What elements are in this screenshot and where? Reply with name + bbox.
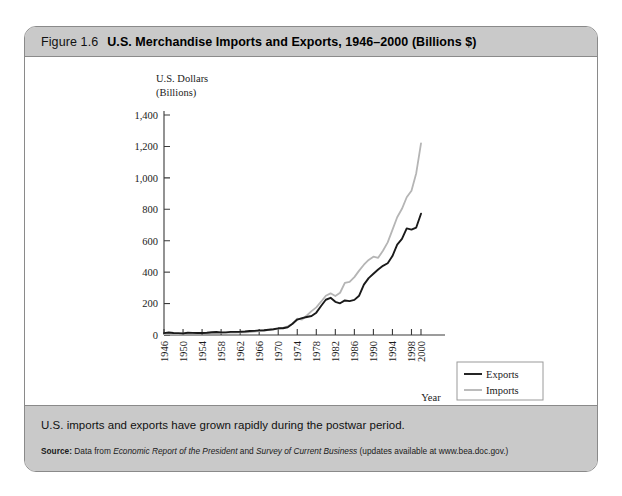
figure-caption: U.S. imports and exports have grown rapi…: [41, 419, 405, 431]
x-tick-label: 1986: [349, 341, 360, 362]
figure-number: Figure 1.6: [41, 35, 98, 49]
line-chart: 02004006008001,0001,2001,400194619501954…: [25, 57, 598, 405]
x-axis-title: Year: [421, 392, 441, 403]
source-italic-1: Economic Report of the President: [113, 446, 237, 456]
series-line-imports: [164, 143, 421, 334]
y-tick-label: 600: [142, 236, 158, 247]
figure-container: Figure 1.6 U.S. Merchandise Imports and …: [24, 26, 598, 472]
series-line-exports: [164, 214, 421, 334]
y-tick-label: 400: [142, 267, 158, 278]
source-label: Source:: [41, 446, 72, 456]
y-axis-title-line1: U.S. Dollars: [156, 73, 208, 84]
figure-caption-band: U.S. imports and exports have grown rapi…: [25, 405, 597, 472]
y-axis-title-line2: (Billions): [156, 87, 197, 99]
x-tick-label: 2000: [416, 341, 427, 362]
y-tick-label: 1,400: [134, 110, 158, 121]
x-tick-label: 1978: [311, 341, 322, 362]
figure-source: Source: Data from Economic Report of the…: [41, 446, 508, 456]
x-tick-label: 1994: [387, 340, 398, 362]
x-tick-label: 1954: [197, 340, 208, 362]
figure-header: Figure 1.6 U.S. Merchandise Imports and …: [25, 27, 597, 57]
source-text-3: (updates available at www.bea.doc.gov.): [357, 446, 508, 456]
x-tick-label: 1966: [254, 341, 265, 362]
x-tick-label: 1958: [216, 341, 227, 362]
y-tick-label: 0: [153, 330, 158, 341]
x-tick-label: 1950: [178, 341, 189, 362]
legend-label-imports: Imports: [486, 385, 519, 396]
source-text-2: and: [238, 446, 257, 456]
legend-label-exports: Exports: [486, 369, 519, 380]
x-tick-label: 1974: [292, 340, 303, 362]
x-tick-label: 1990: [368, 341, 379, 362]
chart-plot-region: 02004006008001,0001,2001,400194619501954…: [25, 57, 597, 405]
x-tick-label: 1962: [235, 341, 246, 362]
source-text-1: Data from: [72, 446, 113, 456]
source-italic-2: Survey of Current Business: [256, 446, 357, 456]
figure-title: U.S. Merchandise Imports and Exports, 19…: [107, 35, 476, 49]
y-tick-label: 200: [142, 298, 158, 309]
x-tick-label: 1982: [330, 341, 341, 362]
x-tick-label: 1946: [159, 341, 170, 362]
y-tick-label: 1,200: [134, 141, 158, 152]
y-tick-label: 800: [142, 204, 158, 215]
y-tick-label: 1,000: [134, 173, 158, 184]
x-tick-label: 1970: [273, 341, 284, 362]
